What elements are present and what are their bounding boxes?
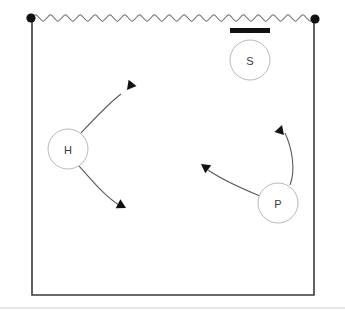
arrow-h-upper-right-shaft bbox=[81, 94, 121, 133]
right-surface-pin bbox=[310, 14, 319, 23]
arrow-p-up-shaft bbox=[285, 133, 293, 185]
node-p: P bbox=[258, 183, 298, 223]
arrow-h-upper-right bbox=[81, 80, 136, 133]
water-surface-wave bbox=[32, 15, 314, 21]
node-s-label: S bbox=[246, 55, 253, 67]
floating-plate bbox=[230, 28, 270, 33]
node-p-label: P bbox=[274, 198, 281, 210]
left-surface-pin bbox=[26, 13, 35, 22]
node-h: H bbox=[48, 129, 88, 169]
arrow-h-upper-right-head-icon bbox=[123, 80, 136, 93]
labelled-nodes: SHP bbox=[48, 40, 298, 223]
arrow-h-lower-right-head-icon bbox=[116, 199, 129, 212]
arrow-p-up bbox=[274, 123, 292, 185]
diagram-canvas: SHP bbox=[0, 0, 345, 314]
arrow-p-upper-left-shaft bbox=[208, 170, 260, 196]
arrow-p-upper-left bbox=[198, 160, 260, 196]
arrow-h-lower-right bbox=[79, 166, 128, 212]
arrow-h-lower-right-shaft bbox=[79, 166, 119, 205]
node-h-label: H bbox=[64, 144, 72, 156]
node-s: S bbox=[230, 40, 270, 80]
